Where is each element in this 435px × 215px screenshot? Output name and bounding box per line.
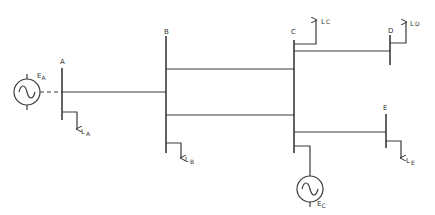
load-lb: LB xyxy=(166,143,194,165)
load-ld-label: LD xyxy=(410,20,420,28)
generator-ec: EC xyxy=(294,146,326,209)
load-la: LA xyxy=(62,112,91,137)
bus-d: D xyxy=(388,27,393,65)
load-lb-arrow-icon xyxy=(166,143,181,158)
bus-b: B xyxy=(164,28,169,153)
load-lb-label: LB xyxy=(185,156,194,165)
load-la-label: LA xyxy=(81,128,91,137)
load-le-arrow-icon xyxy=(386,141,401,158)
bus-a: A xyxy=(60,58,65,120)
load-lc: LC xyxy=(294,18,330,44)
generator-ea-label: EA xyxy=(37,72,46,81)
bus-a-label: A xyxy=(60,58,65,66)
power-system-diagram: EA A LA B LB C LC D LD xyxy=(0,0,435,215)
bus-c-label: C xyxy=(291,28,296,36)
generator-ec-label: EC xyxy=(317,200,326,209)
load-lc-arrow-icon xyxy=(294,20,316,44)
bus-d-label: D xyxy=(388,27,393,35)
generator-ea: EA xyxy=(14,72,62,110)
load-le: LE xyxy=(386,141,415,166)
load-la-arrow-icon xyxy=(62,112,77,129)
load-ld: LD xyxy=(390,20,420,43)
sine-wave-icon xyxy=(19,86,35,98)
load-le-label: LE xyxy=(406,157,415,166)
bus-c: C xyxy=(291,28,296,153)
bus-e-label: E xyxy=(383,104,387,112)
bus-b-label: B xyxy=(164,28,169,36)
load-lc-label: LC xyxy=(321,18,330,26)
generator-ec-feeder xyxy=(294,146,310,176)
sine-wave-icon xyxy=(302,183,318,195)
